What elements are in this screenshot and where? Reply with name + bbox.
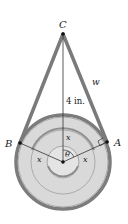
label-x-left: x [37, 155, 42, 164]
label-w: w [92, 77, 100, 87]
point-c [61, 32, 65, 36]
label-x-right: x [83, 155, 88, 164]
label-x-top: x [66, 133, 71, 142]
label-a: A [113, 137, 121, 148]
point-a [105, 140, 109, 144]
label-theta: θ [65, 150, 70, 159]
point-center [61, 160, 65, 164]
point-b [18, 141, 22, 145]
label-b: B [4, 138, 12, 149]
label-c: C [59, 19, 67, 30]
label-height: 4 in. [66, 96, 85, 106]
belt-pulley-diagram: C B A w 4 in. x x x θ [0, 0, 128, 224]
